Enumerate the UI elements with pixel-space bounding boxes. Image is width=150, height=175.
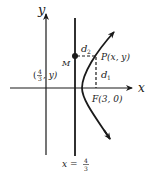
point-m-coordinates: ( 4 3 , y) [33,68,58,82]
svg-text:4: 4 [38,68,42,75]
svg-text:x =: x = [62,159,77,169]
svg-text:, y): , y) [43,70,58,80]
point-m-dot [72,53,78,59]
svg-text:2: 2 [87,48,91,55]
svg-text:(: ( [33,70,37,80]
svg-text:3: 3 [84,165,88,172]
point-m-label: M [61,59,71,68]
svg-text:3: 3 [38,75,42,82]
directrix-equation: x = 4 3 [62,157,89,172]
y-axis-label: y [37,2,46,17]
distance-d2-label: d 2 [81,43,91,55]
x-axis-label: x [138,81,145,95]
parabola-lower-arrow [104,130,110,139]
focus-f-label: F(3, 0) [91,94,123,104]
point-p-label: P(x, y) [100,52,130,62]
parabola-diagram: y x M ( 4 3 , y) P(x, y) F(3, 0) d 2 d 1… [0,0,150,175]
distance-d1-label: d 1 [101,69,111,81]
svg-text:4: 4 [84,157,88,164]
svg-text:1: 1 [107,74,111,81]
diagram-svg: y x M ( 4 3 , y) P(x, y) F(3, 0) d 2 d 1… [0,0,150,175]
